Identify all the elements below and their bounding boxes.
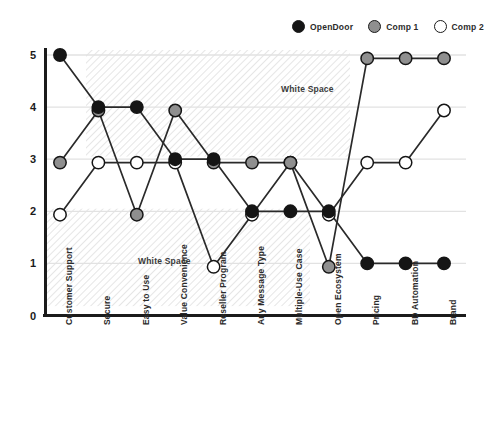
whitespace-region-1	[86, 50, 350, 157]
data-point-comp-1-8[interactable]	[361, 52, 373, 64]
x-tick-multiple-use-case: Multiple-Use Case	[294, 248, 304, 325]
y-tick-3: 3	[14, 153, 36, 165]
data-point-comp-1-0[interactable]	[54, 156, 66, 168]
data-point-opendoor-6[interactable]	[284, 205, 296, 217]
x-tick-customer-support: Customer Support	[64, 247, 74, 325]
y-tick-2: 2	[14, 205, 36, 217]
x-tick-easy-to-use: Easy to Use	[141, 275, 151, 325]
plot-area	[0, 0, 488, 424]
y-tick-4: 4	[14, 101, 36, 113]
x-tick-brand: Brand	[448, 299, 458, 325]
data-point-comp-2-0[interactable]	[54, 209, 66, 221]
data-point-comp-2-1[interactable]	[92, 156, 104, 168]
data-point-comp-2-9[interactable]	[399, 156, 411, 168]
data-point-opendoor-5[interactable]	[246, 205, 258, 217]
data-point-opendoor-10[interactable]	[438, 257, 450, 269]
x-tick-secure: Secure	[102, 295, 112, 325]
x-tick-any-message-type: Any Message Type	[256, 246, 266, 325]
data-point-comp-2-8[interactable]	[361, 156, 373, 168]
x-tick-pricing: Pricing	[371, 295, 381, 325]
annotation-white-space-2: White Space	[138, 256, 191, 266]
data-point-comp-1-2[interactable]	[131, 209, 143, 221]
data-point-opendoor-8[interactable]	[361, 257, 373, 269]
data-point-comp-1-9[interactable]	[399, 52, 411, 64]
annotation-white-space-1: White Space	[281, 84, 334, 94]
data-point-comp-1-6[interactable]	[284, 156, 296, 168]
data-point-opendoor-1[interactable]	[92, 101, 104, 113]
data-point-comp-1-3[interactable]	[169, 104, 181, 116]
y-tick-1: 1	[14, 257, 36, 269]
data-point-opendoor-0[interactable]	[54, 49, 66, 61]
data-point-comp-1-10[interactable]	[438, 52, 450, 64]
data-point-comp-2-10[interactable]	[438, 104, 450, 116]
y-tick-5: 5	[14, 49, 36, 61]
data-point-opendoor-7[interactable]	[323, 205, 335, 217]
x-tick-open-ecosystem: Open Ecosystem	[333, 253, 343, 325]
y-tick-0: 0	[14, 310, 36, 322]
data-point-opendoor-2[interactable]	[131, 101, 143, 113]
plot-svg	[0, 0, 488, 424]
data-point-comp-1-5[interactable]	[246, 156, 258, 168]
x-tick-bd-automation: BD Automation	[410, 261, 420, 325]
radar-comparison-chart: OpenDoor Comp 1 Comp 2 012345 Customer S…	[0, 0, 488, 424]
data-point-opendoor-3[interactable]	[169, 153, 181, 165]
data-point-comp-2-2[interactable]	[131, 156, 143, 168]
x-tick-reseller-program: Reseller Program	[218, 251, 228, 325]
data-point-opendoor-4[interactable]	[207, 153, 219, 165]
